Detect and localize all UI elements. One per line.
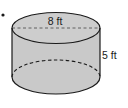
height-label: 5 ft [102, 49, 117, 61]
bullet-marker [1, 13, 4, 16]
diameter-label: 8 ft [48, 15, 63, 27]
cylinder-diagram: 8 ft 5 ft [0, 0, 128, 108]
